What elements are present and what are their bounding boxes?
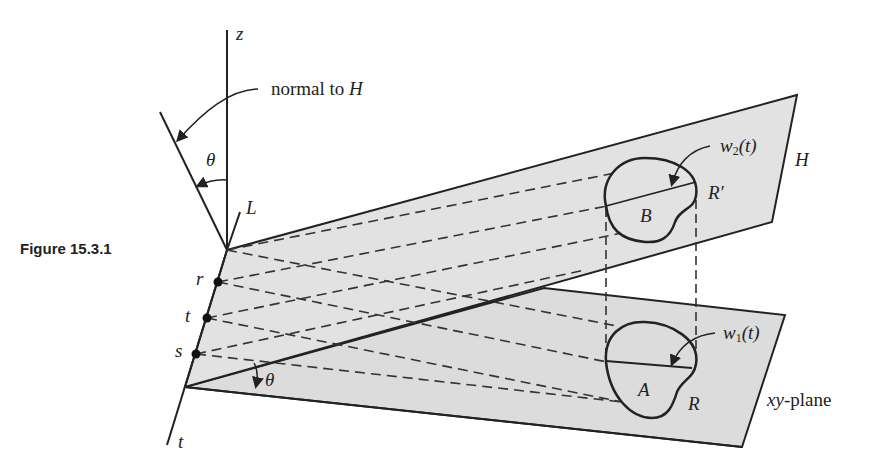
point-s (192, 350, 201, 359)
R-prime-label: R′ (708, 183, 724, 202)
xy-plane-label: xy-plane (767, 390, 831, 409)
t-bottom-label: t (178, 432, 183, 451)
z-axis-label: z (236, 24, 243, 43)
point-t (203, 314, 212, 323)
xy-label-rest: -plane (784, 389, 831, 410)
s-label: s (175, 341, 182, 360)
normal-line (160, 112, 227, 250)
w2-main: w (720, 135, 733, 156)
figure-caption: Figure 15.3.1 (20, 240, 112, 257)
xy-label-italic: xy (767, 389, 784, 410)
normal-pointer-arrow (178, 89, 258, 140)
normal-label-text: normal to (271, 78, 349, 99)
w1-arg: (t) (742, 322, 760, 343)
R-label: R (688, 394, 700, 413)
theta-bottom-label: θ (265, 370, 274, 389)
L-label: L (246, 198, 257, 217)
point-r (214, 278, 223, 287)
w1-main: w (723, 322, 736, 343)
B-label: B (640, 206, 652, 225)
w2-label: w2(t) (720, 136, 757, 157)
theta-top-label: θ (206, 150, 215, 169)
L-line (227, 212, 240, 250)
normal-label: normal to H (271, 79, 363, 98)
w1-label: w1(t) (723, 323, 760, 344)
figure-15-3-1: Figure 15.3.1 z normal to H θ L r t s θ … (0, 0, 880, 476)
w2-arg: (t) (739, 135, 757, 156)
r-label: r (196, 269, 203, 288)
t-mid-label: t (185, 306, 190, 325)
normal-label-H: H (349, 78, 363, 99)
diagram-canvas (0, 0, 880, 476)
A-label: A (638, 380, 650, 399)
H-plane-label: H (795, 150, 809, 169)
theta-arc-top (198, 180, 227, 186)
